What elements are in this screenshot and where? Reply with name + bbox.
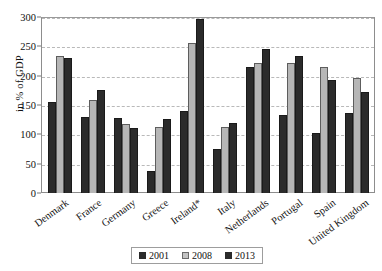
bar-greece-2001 (147, 171, 155, 193)
bar-denmark-2013 (64, 58, 72, 193)
bar-spain-2008 (320, 67, 328, 193)
bar-france-2008 (89, 100, 97, 193)
legend-item-2001: 2001 (139, 250, 169, 261)
bar-spain-2001 (312, 133, 320, 193)
bar-group (307, 17, 340, 193)
bar-ireland-2013 (196, 19, 204, 193)
bar-group (109, 17, 142, 193)
x-tick-label: United Kingdom (307, 197, 371, 248)
bar-unitedkingdom-2008 (353, 78, 361, 193)
y-tick-label: 150 (20, 100, 36, 111)
x-tick-label: Spain (312, 197, 338, 220)
bar-group (208, 17, 241, 193)
bar-group (175, 17, 208, 193)
legend-label: 2008 (192, 250, 212, 261)
bar-germany-2013 (130, 128, 138, 193)
legend-item-2013: 2013 (225, 250, 255, 261)
x-tick-label: Denmark (32, 197, 70, 229)
bar-germany-2001 (114, 118, 122, 193)
bar-portugal-2008 (287, 63, 295, 193)
y-tick-label: 200 (20, 70, 36, 81)
y-tick-label: 300 (20, 12, 36, 23)
legend-item-2008: 2008 (182, 250, 212, 261)
bar-unitedkingdom-2013 (361, 92, 369, 193)
legend-label: 2013 (235, 250, 255, 261)
legend-swatch-icon (182, 252, 189, 259)
x-axis-labels: DenmarkFranceGermanyGreeceIreland*ItalyN… (41, 193, 375, 251)
bar-italy-2008 (221, 127, 229, 193)
bar-greece-2013 (163, 119, 171, 194)
bar-germany-2008 (122, 124, 130, 193)
y-axis-ticks: 050100150200250300 (0, 17, 41, 193)
bar-italy-2001 (213, 149, 221, 193)
y-tick-label: 100 (20, 129, 36, 140)
bar-ireland-2008 (188, 43, 196, 193)
chart-legend: 200120082013 (131, 247, 263, 264)
bar-group (76, 17, 109, 193)
y-tick-label: 250 (20, 41, 36, 52)
y-tick-label: 50 (26, 158, 37, 169)
bar-portugal-2001 (279, 115, 287, 193)
legend-swatch-icon (225, 252, 232, 259)
bar-chart-figure: in % of GDP 050100150200250300 DenmarkFr… (0, 0, 382, 271)
x-tick-label: Germany (99, 197, 137, 229)
bar-italy-2013 (229, 123, 237, 193)
bar-group (142, 17, 175, 193)
legend-swatch-icon (139, 252, 146, 259)
x-tick-label: Greece (140, 197, 171, 223)
x-tick-label: Portugal (269, 197, 304, 227)
bar-france-2013 (97, 90, 105, 193)
bar-netherlands-2008 (254, 63, 262, 193)
bar-group (340, 17, 373, 193)
x-tick-label: Ireland* (169, 197, 204, 226)
y-tick-label: 0 (31, 188, 36, 199)
legend-label: 2001 (149, 250, 169, 261)
x-tick-label: Italy (215, 197, 237, 217)
bar-unitedkingdom-2001 (345, 113, 353, 193)
bar-denmark-2008 (56, 56, 64, 193)
bar-group (274, 17, 307, 193)
bar-netherlands-2001 (246, 67, 254, 193)
bars-layer (41, 17, 375, 193)
bar-france-2001 (81, 117, 89, 193)
bar-greece-2008 (155, 127, 163, 193)
bar-denmark-2001 (48, 102, 56, 193)
bar-portugal-2013 (295, 56, 303, 193)
bar-group (241, 17, 274, 193)
bar-netherlands-2013 (262, 49, 270, 193)
bar-group (43, 17, 76, 193)
bar-ireland-2001 (180, 111, 188, 193)
bar-spain-2013 (328, 80, 336, 193)
